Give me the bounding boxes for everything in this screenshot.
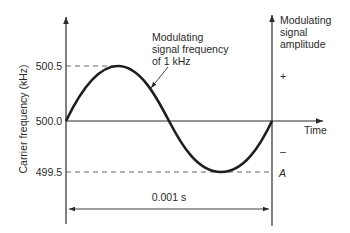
curve-annotation-line-1: Modulating [152, 31, 204, 43]
right-axis-label-line-3: amplitude [280, 38, 326, 50]
amplitude-marker: A [278, 167, 286, 179]
minus-sign: – [280, 145, 286, 157]
y-tick-500-5: 500.5 [36, 60, 62, 72]
duration-label: 0.001 s [152, 191, 186, 203]
plus-sign: + [280, 70, 286, 82]
curve-annotation-line-3: of 1 kHz [152, 55, 191, 67]
fm-diagram: Carrier frequency (kHz) 500.5 500.0 499.… [0, 0, 350, 233]
y-axis-label: Carrier frequency (kHz) [17, 64, 29, 173]
right-axis-label-line-2: signal [280, 26, 307, 38]
y-tick-500-0: 500.0 [36, 115, 62, 127]
x-axis-label: Time [304, 124, 327, 136]
frequency-curve [66, 66, 272, 172]
curve-annotation-line-2: signal frequency [152, 43, 229, 55]
y-tick-499-5: 499.5 [36, 166, 62, 178]
right-axis-label-line-1: Modulating [280, 14, 332, 26]
annotation-leader [151, 67, 168, 88]
